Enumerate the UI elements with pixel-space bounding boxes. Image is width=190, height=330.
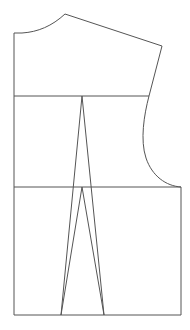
neckline [14,14,65,33]
shoulder-seam [65,14,162,46]
outer-dart [61,96,104,315]
bodice-pattern-diagram [0,0,190,330]
armhole [143,46,181,187]
